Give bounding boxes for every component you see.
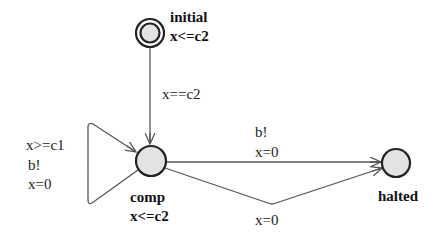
location-comp-name: comp — [130, 189, 165, 205]
location-comp[interactable] — [136, 146, 166, 176]
edge-initial-comp-guard: x==c2 — [162, 86, 201, 102]
location-halted-name: halted — [378, 188, 419, 204]
edge-top-sync: b! — [255, 124, 268, 140]
location-initial-invariant: x<=c2 — [170, 28, 209, 44]
location-circle — [382, 149, 410, 177]
edge-bottom-update: x=0 — [255, 212, 278, 228]
edge-self-update: x=0 — [28, 176, 51, 192]
automaton-diagram: initial x<=c2 x==c2 x>=c1 b! x=0 b! x=0 … — [0, 0, 438, 240]
location-comp-invariant: x<=c2 — [130, 208, 169, 224]
location-halted[interactable] — [382, 149, 410, 177]
edge-self-guard: x>=c1 — [26, 137, 65, 153]
edge-comp-to-halted-bottom[interactable] — [165, 168, 382, 204]
location-initial[interactable] — [136, 19, 164, 47]
location-circle — [141, 24, 160, 43]
edge-self-sync: b! — [28, 157, 41, 173]
edge-line — [165, 168, 382, 204]
location-circle — [136, 146, 166, 176]
edge-top-update: x=0 — [255, 144, 278, 160]
location-initial-name: initial — [170, 9, 208, 25]
